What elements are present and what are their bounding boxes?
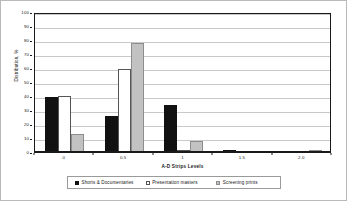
y-axis-tick-labels: 0102030405060708090100 bbox=[1, 13, 32, 153]
y-axis-tick-mark bbox=[30, 55, 32, 56]
legend-item: Shorts & Documentaries bbox=[68, 180, 139, 185]
bar-group bbox=[283, 14, 322, 152]
x-axis-tick-label: 1 bbox=[181, 156, 184, 160]
bar bbox=[131, 43, 144, 152]
x-axis-tick-label: 0 bbox=[62, 156, 65, 160]
x-axis-tick-mark bbox=[212, 153, 213, 155]
x-axis-tick-mark bbox=[152, 153, 153, 155]
x-axis-tick-label: 2.0 bbox=[298, 156, 304, 160]
bar bbox=[58, 96, 71, 152]
x-axis-tick-label: 1.5 bbox=[239, 156, 245, 160]
y-axis-tick-mark bbox=[30, 111, 32, 112]
legend-swatch-icon bbox=[216, 181, 220, 185]
legend-swatch-icon bbox=[75, 181, 79, 185]
y-axis-tick-label: 10 bbox=[24, 137, 29, 141]
x-axis-title: A-D Strips Levels bbox=[34, 164, 331, 169]
bar bbox=[164, 105, 177, 152]
y-axis-tick-mark bbox=[30, 13, 32, 14]
y-axis-tick-label: 80 bbox=[24, 39, 29, 43]
y-axis-tick-label: 90 bbox=[24, 25, 29, 29]
chart-figure: Distribution, % 0102030405060708090100 0… bbox=[0, 0, 347, 201]
bar-groups bbox=[35, 14, 330, 152]
y-axis-tick-label: 100 bbox=[21, 11, 29, 15]
bar-group bbox=[164, 14, 203, 152]
y-axis-tick-mark bbox=[30, 139, 32, 140]
legend-swatch-icon bbox=[146, 181, 150, 185]
y-axis-tick-label: 50 bbox=[24, 81, 29, 85]
bar bbox=[118, 69, 131, 152]
y-axis-tick-mark bbox=[30, 153, 32, 154]
y-axis-tick-label: 60 bbox=[24, 67, 29, 71]
legend-item-label: Screening prints bbox=[223, 180, 258, 185]
y-axis-tick-mark bbox=[30, 27, 32, 28]
bar bbox=[45, 97, 58, 152]
x-axis-tick-mark bbox=[271, 153, 272, 155]
bar bbox=[105, 116, 118, 152]
y-axis-tick-label: 20 bbox=[24, 123, 29, 127]
bar bbox=[71, 134, 84, 152]
y-axis-tick-label: 40 bbox=[24, 95, 29, 99]
legend-item-label: Presentation masters bbox=[152, 180, 197, 185]
y-axis-tick-mark bbox=[30, 83, 32, 84]
bar-group bbox=[223, 14, 262, 152]
x-axis-tick-mark bbox=[331, 153, 332, 155]
legend-item: Presentation masters bbox=[139, 180, 210, 185]
x-axis-tick-mark bbox=[34, 153, 35, 155]
bar-group bbox=[105, 14, 144, 152]
x-axis-baseline bbox=[35, 151, 330, 152]
bar-group bbox=[45, 14, 84, 152]
y-axis-tick-label: 70 bbox=[24, 53, 29, 57]
y-axis-tick-mark bbox=[30, 97, 32, 98]
x-axis-tick-mark bbox=[93, 153, 94, 155]
y-axis-tick-mark bbox=[30, 125, 32, 126]
y-axis-tick-mark bbox=[30, 69, 32, 70]
x-axis-tick-label: 0.5 bbox=[120, 156, 126, 160]
y-axis-tick-mark bbox=[30, 41, 32, 42]
legend-item: Screening prints bbox=[209, 180, 280, 185]
legend-item-label: Shorts & Documentaries bbox=[82, 180, 134, 185]
y-axis-tick-label: 0 bbox=[26, 151, 29, 155]
plot-area bbox=[34, 13, 331, 153]
chart-legend: Shorts & DocumentariesPresentation maste… bbox=[67, 176, 281, 189]
y-axis-tick-label: 30 bbox=[24, 109, 29, 113]
x-axis-tick-labels: 00.511.52.0 bbox=[34, 153, 331, 163]
